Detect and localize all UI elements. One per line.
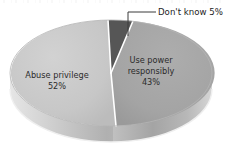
abuse-privilege-label-value: 52% [48,81,66,91]
pie-chart: Don't know 5% Abuse privilege 52% Use po… [0,0,225,166]
dont-know-label: Don't know 5% [158,7,223,17]
use-power-label-line2: responsibly [128,66,175,76]
abuse-privilege-label-line1: Abuse privilege [25,70,88,80]
use-power-label-line1: Use power [129,55,173,65]
pie-chart-svg: Don't know 5% Abuse privilege 52% Use po… [0,0,225,166]
use-power-label-value: 43% [142,77,160,87]
